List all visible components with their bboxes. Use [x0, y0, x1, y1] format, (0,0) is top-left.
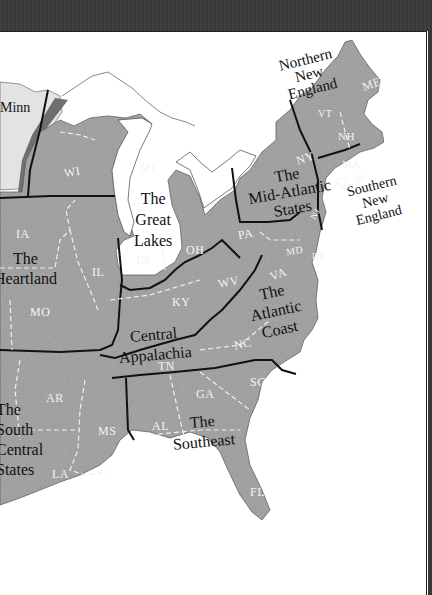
state-label-mo: MO	[30, 306, 50, 318]
state-label-ma: MA	[342, 158, 361, 170]
state-label-nc: NC	[233, 336, 253, 351]
state-label-ms: MS	[98, 425, 116, 437]
state-label-ct: CT	[336, 176, 350, 188]
state-label-oh: OH	[186, 244, 204, 256]
state-label-in: IN	[136, 254, 150, 266]
region-label-central-appalachia: Central Appalachia	[116, 322, 192, 368]
state-label-de: DE	[312, 250, 325, 262]
region-label-south-central: The South Central States	[0, 400, 43, 480]
state-label-al: AL	[152, 420, 169, 432]
state-label-il: IL	[92, 266, 104, 278]
state-label-la: LA	[52, 468, 69, 480]
state-label-ga: GA	[196, 388, 214, 400]
state-label-ky: KY	[172, 296, 190, 308]
state-label-pa: PA	[237, 227, 254, 241]
state-label-ar: AR	[46, 392, 64, 404]
state-label-sc: SC	[250, 376, 266, 388]
state-label-fl: FL	[250, 486, 265, 498]
minnesota-label: Minn	[0, 100, 30, 116]
region-label-southeast: The Southeast	[170, 409, 235, 454]
state-label-mi: MI	[140, 162, 156, 174]
region-label-great-lakes: The Great Lakes	[134, 188, 172, 251]
state-label-ri: RI	[356, 172, 366, 184]
state-label-nh: NH	[338, 130, 355, 142]
region-label-heartland: The Heartland	[0, 249, 57, 289]
state-label-vt: VT	[318, 108, 332, 120]
state-label-ia: IA	[16, 228, 30, 240]
state-label-tn: TN	[158, 360, 175, 372]
state-label-wi: WI	[63, 165, 81, 180]
